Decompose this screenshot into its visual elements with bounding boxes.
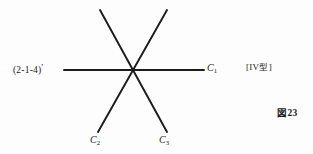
figure-caption-number: 23 [287,108,297,118]
type-note-roman: IV [249,62,259,72]
figure-container: (2-1-4)′ C1 C2 C3 [IV型] 図23 [0,0,313,154]
figure-caption: 図23 [277,108,298,119]
type-note-kanji: 型 [259,62,268,72]
label-c1-subscript: 1 [214,67,217,74]
type-note-close-bracket: ] [269,62,272,72]
figure-caption-prefix: 図 [277,107,287,118]
label-c3: C3 [159,135,169,147]
label-c2-subscript: 2 [97,139,100,146]
direction-index-prime: ′ [41,62,43,72]
label-c2-letter: C [90,134,97,145]
label-c3-subscript: 3 [166,139,169,146]
label-c3-letter: C [159,134,166,145]
figure-line-art [0,0,313,154]
direction-index-label: (2-1-4)′ [13,63,43,75]
label-c1: C1 [207,63,217,75]
label-c1-letter: C [207,62,214,73]
direction-index-body: (2-1-4) [13,65,41,75]
type-note-label: [IV型] [246,63,272,72]
label-c2: C2 [90,135,100,147]
